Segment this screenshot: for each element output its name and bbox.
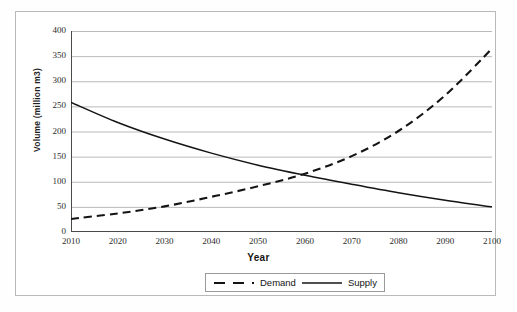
series-line-demand [71, 49, 492, 219]
legend-label-demand: Demand [260, 277, 296, 288]
x-tick-label: 2090 [429, 236, 461, 246]
legend-label-supply: Supply [348, 277, 377, 288]
x-tick-label: 2010 [55, 236, 87, 246]
x-tick-label: 2030 [149, 236, 181, 246]
x-axis-title: Year [0, 252, 517, 263]
y-tick-label: 0 [62, 227, 67, 236]
x-axis-tick-labels: 2010202020302040205020602070208020902100 [0, 236, 517, 250]
series-line-supply [71, 102, 492, 207]
y-tick-label: 300 [53, 76, 67, 85]
y-tick-label: 50 [57, 202, 66, 211]
x-tick-label: 2040 [195, 236, 227, 246]
y-tick-label: 200 [53, 127, 67, 136]
y-tick-label: 250 [53, 101, 67, 110]
x-tick-label: 2070 [336, 236, 368, 246]
x-tick-label: 2100 [476, 236, 508, 246]
x-tick-label: 2060 [289, 236, 321, 246]
x-tick-label: 2050 [242, 236, 274, 246]
y-tick-label: 350 [53, 51, 67, 60]
y-tick-label: 150 [53, 152, 67, 161]
chart-legend: Demand Supply [205, 273, 385, 292]
y-axis-tick-labels: 050100150200250300350400 [40, 0, 66, 312]
y-tick-label: 400 [53, 26, 67, 35]
chart-screenshot: Volume (million m3) 05010015020025030035… [0, 0, 517, 312]
legend-swatch-supply [301, 274, 343, 292]
x-tick-label: 2020 [102, 236, 134, 246]
plot-svg [71, 31, 492, 232]
plot-area [71, 31, 492, 232]
x-tick-label: 2080 [382, 236, 414, 246]
y-tick-label: 100 [53, 177, 67, 186]
legend-swatch-demand [213, 274, 255, 292]
